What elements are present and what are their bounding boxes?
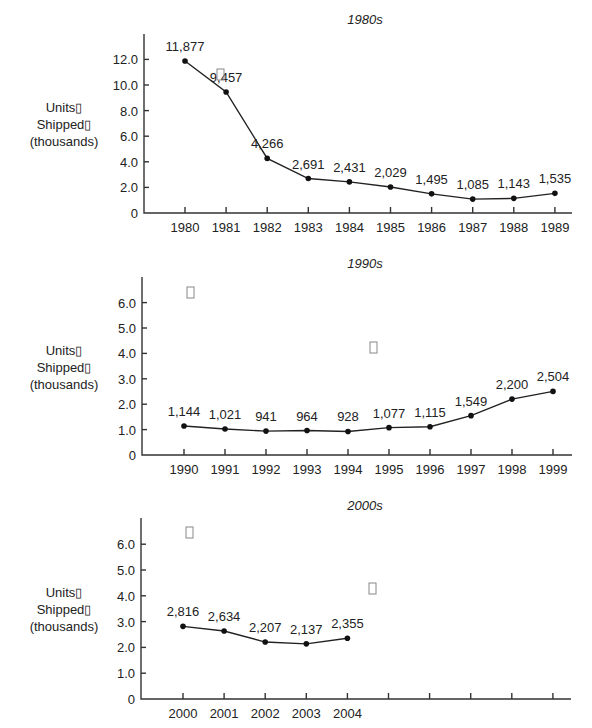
x-tick-label: 2000 <box>169 706 198 721</box>
y-tick-label: 6.0 <box>120 129 138 144</box>
data-label: 9,457 <box>210 70 243 85</box>
data-point <box>388 184 394 190</box>
x-tick-label: 1980 <box>171 220 200 235</box>
data-point <box>304 641 310 647</box>
data-point <box>181 423 187 429</box>
data-point <box>262 639 268 645</box>
y-tick-label: 10.0 <box>113 78 138 93</box>
data-point <box>180 624 186 630</box>
y-tick-label: 3.0 <box>117 615 135 630</box>
data-label: 1,495 <box>415 172 448 187</box>
missing-glyph-icon <box>186 527 193 538</box>
y-tick-label: 4.0 <box>120 155 138 170</box>
x-tick-label: 1990 <box>170 462 199 477</box>
data-point <box>509 396 515 402</box>
data-label: 2,691 <box>292 157 325 172</box>
x-tick-label: 2001 <box>210 706 239 721</box>
data-label: 2,816 <box>167 604 200 619</box>
axes <box>141 518 571 699</box>
chart-title: 1990s <box>347 256 383 271</box>
y-tick-label: 12.0 <box>113 52 138 67</box>
x-tick-label: 1991 <box>211 462 240 477</box>
chart-title: 2000s <box>346 498 383 513</box>
x-tick-label: 1989 <box>540 220 569 235</box>
data-line <box>184 391 553 431</box>
y-tick-label: 6.0 <box>117 537 135 552</box>
chart-1980s: Units▯ Shipped▯ (thousands) 1980s02.04.0… <box>0 0 592 240</box>
x-tick-label: 1986 <box>417 220 446 235</box>
x-tick-label: 1987 <box>458 220 487 235</box>
data-point <box>306 176 312 182</box>
x-tick-label: 2004 <box>333 706 362 721</box>
y-tick-label: 4.0 <box>117 589 135 604</box>
data-label: 2,200 <box>496 377 529 392</box>
x-tick-label: 1982 <box>253 220 282 235</box>
data-point <box>427 424 433 430</box>
y-tick-label: 1.0 <box>118 423 136 438</box>
data-point <box>304 428 310 434</box>
x-tick-label: 1999 <box>539 462 568 477</box>
x-tick-label: 1988 <box>499 220 528 235</box>
y-axis-label-line-1: Units▯ <box>14 342 114 359</box>
x-tick-label: 1981 <box>212 220 241 235</box>
y-tick-label: 5.0 <box>118 321 136 336</box>
x-tick-label: 2002 <box>251 706 280 721</box>
data-point <box>264 156 270 162</box>
data-label: 2,504 <box>537 369 570 384</box>
x-tick-label: 1998 <box>498 462 527 477</box>
y-tick-label: 0 <box>128 692 135 707</box>
axes <box>142 277 572 455</box>
x-tick-label: 1984 <box>335 220 364 235</box>
plot-area: 1980s02.04.06.08.010.012.019801981198219… <box>0 0 592 240</box>
x-tick-label: 1993 <box>293 462 322 477</box>
data-label: 928 <box>337 409 359 424</box>
missing-glyph-icon <box>187 287 194 298</box>
data-label: 941 <box>255 409 277 424</box>
data-label: 1,549 <box>455 394 488 409</box>
x-tick-label: 1994 <box>334 462 363 477</box>
data-point <box>468 413 474 419</box>
data-label: 2,207 <box>249 620 282 635</box>
x-tick-label: 1983 <box>294 220 323 235</box>
y-axis-label-line-3: (thousands) <box>14 618 114 635</box>
y-axis-label-line-2: Shipped▯ <box>14 359 114 376</box>
data-label: 2,029 <box>374 165 407 180</box>
y-axis-label-line-2: Shipped▯ <box>14 601 114 618</box>
data-point <box>386 425 392 431</box>
data-label: 1,144 <box>168 404 201 419</box>
y-tick-label: 2.0 <box>120 180 138 195</box>
chart-title: 1980s <box>347 12 383 27</box>
data-label: 1,115 <box>414 405 446 420</box>
y-tick-label: 6.0 <box>118 296 136 311</box>
data-label: 1,085 <box>456 177 489 192</box>
data-point <box>345 429 351 435</box>
data-label: 2,137 <box>290 622 323 637</box>
data-point <box>550 389 556 395</box>
data-point <box>429 191 435 197</box>
y-tick-label: 8.0 <box>120 104 138 119</box>
y-axis-label: Units▯ Shipped▯ (thousands) <box>14 584 114 635</box>
x-tick-label: 2003 <box>292 706 321 721</box>
y-tick-label: 1.0 <box>117 666 135 681</box>
y-tick-label: 2.0 <box>118 397 136 412</box>
y-axis-label-line-1: Units▯ <box>14 584 114 601</box>
y-tick-label: 2.0 <box>117 640 135 655</box>
data-point <box>345 635 351 641</box>
data-line <box>183 626 347 644</box>
data-label: 964 <box>296 409 318 424</box>
missing-glyph-icon <box>369 583 376 594</box>
y-tick-label: 5.0 <box>117 563 135 578</box>
y-tick-label: 0 <box>129 448 136 463</box>
data-label: 1,021 <box>209 407 242 422</box>
x-tick-label: 1997 <box>457 462 486 477</box>
x-tick-label: 1985 <box>376 220 405 235</box>
data-label: 1,077 <box>373 406 406 421</box>
data-label: 1,143 <box>498 176 531 191</box>
x-tick-label: 1995 <box>375 462 404 477</box>
y-tick-label: 3.0 <box>118 372 136 387</box>
data-point <box>470 196 476 202</box>
data-label: 4,266 <box>251 136 284 151</box>
data-label: 2,634 <box>208 609 241 624</box>
y-axis-label-line-3: (thousands) <box>14 376 114 393</box>
data-point <box>223 89 229 95</box>
